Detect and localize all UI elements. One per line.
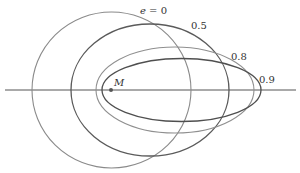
label-e-0: e = 0 xyxy=(140,5,167,16)
orbit-diagram: M e = 00.50.80.9 xyxy=(0,0,300,173)
focus-point-m xyxy=(109,88,113,92)
label-e-0-9: 0.9 xyxy=(259,74,275,85)
label-e-0-8: 0.8 xyxy=(231,51,247,62)
focus-label: M xyxy=(113,77,125,88)
label-e-0-5: 0.5 xyxy=(191,20,207,31)
